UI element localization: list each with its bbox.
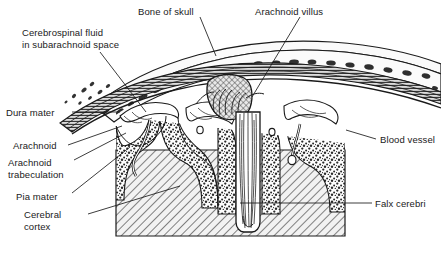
- label-arachnoid-trabeculation: Arachnoid trabeculation: [8, 157, 64, 180]
- anatomical-diagram: Cerebrospinal fluid in subarachnoid spac…: [0, 0, 441, 255]
- leader-vessel: [346, 130, 376, 139]
- label-arachnoid-villus: Arachnoid villus: [255, 6, 323, 18]
- label-falx-cerebri: Falx cerebri: [375, 198, 426, 210]
- label-pia-mater: Pia mater: [16, 191, 58, 203]
- label-bone-of-skull: Bone of skull: [138, 6, 194, 18]
- label-arachnoid: Arachnoid: [13, 140, 57, 152]
- label-blood-vessel: Blood vessel: [380, 134, 435, 146]
- label-dura-mater: Dura mater: [6, 107, 55, 119]
- falx-cerebri: [236, 112, 260, 232]
- leader-bone: [200, 17, 216, 56]
- label-cerebrospinal-fluid: Cerebrospinal fluid in subarachnoid spac…: [22, 27, 119, 50]
- label-cerebral-cortex: Cerebral cortex: [24, 209, 61, 232]
